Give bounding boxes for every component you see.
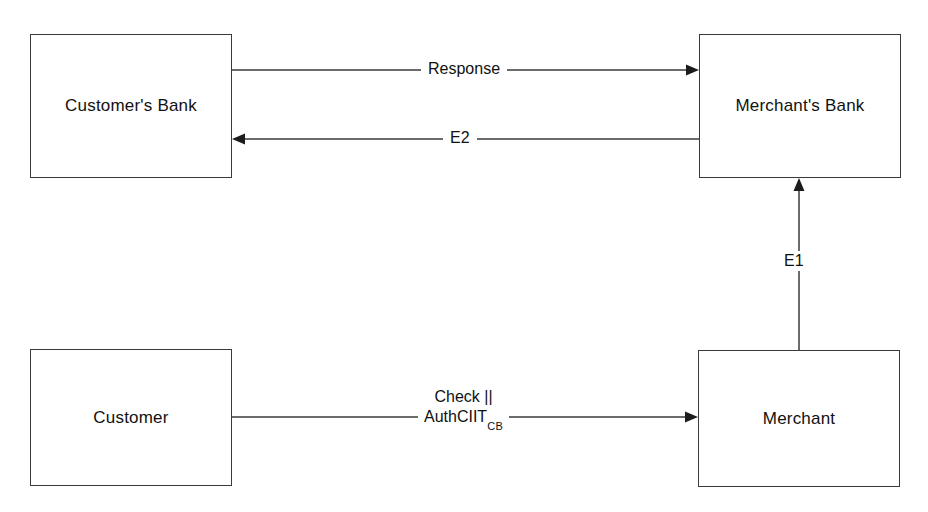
edge-label-e2: E2 [443,128,477,148]
edge-label-check-main: AuthCIIT [424,408,487,425]
edge-e2-arrowhead [232,134,245,145]
edge-label-response: Response [421,59,507,79]
edge-label-check-auth: Check || AuthCIITCB [418,387,509,430]
node-customer-label: Customer [93,408,168,428]
edge-response-arrowhead [686,65,699,76]
edge-label-check-line2: AuthCIITCB [424,407,503,429]
edge-label-e1: E1 [777,251,811,271]
node-merchant[interactable]: Merchant [698,350,900,487]
node-customer[interactable]: Customer [30,349,232,486]
diagram-canvas: Customer's Bank Merchant's Bank Customer… [0,0,928,512]
node-customers-bank-label: Customer's Bank [65,96,197,116]
node-merchant-label: Merchant [763,409,835,429]
node-merchants-bank[interactable]: Merchant's Bank [699,34,901,178]
edge-e1-arrowhead [794,178,805,191]
edge-check-auth-arrowhead [685,412,698,423]
edge-label-check-line1: Check || [424,387,503,407]
node-customers-bank[interactable]: Customer's Bank [30,34,232,178]
edge-label-check-subscript: CB [487,420,503,432]
node-merchants-bank-label: Merchant's Bank [735,96,864,116]
